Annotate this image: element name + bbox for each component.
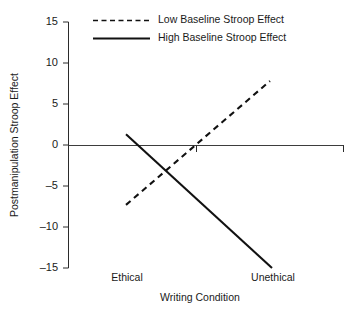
chart-figure: 15 10 5 0 –5 –10 –15 Postmanipulation St… (0, 0, 346, 315)
zero-baseline-group (69, 146, 345, 153)
x-axis-title: Writing Condition (160, 291, 240, 303)
series-line-low-baseline-stroop-effect (126, 81, 270, 205)
y-tick-label-neg5: –5 (46, 179, 58, 191)
y-tick-label-neg15: –15 (40, 261, 58, 273)
legend-entry-high-baseline: High Baseline Stroop Effect (93, 31, 286, 43)
y-tick-label-10: 10 (46, 56, 58, 68)
x-category-label-ethical: Ethical (111, 271, 143, 283)
y-axis-title: Postmanipulation Stroop Effect (8, 73, 20, 217)
chart-legend: Low Baseline Stroop Effect High Baseline… (93, 13, 286, 43)
y-tick-label-0: 0 (52, 138, 58, 150)
series-group (126, 81, 272, 268)
y-axis: 15 10 5 0 –5 –10 –15 Postmanipulation St… (8, 15, 69, 273)
y-tick-label-15: 15 (46, 15, 58, 27)
legend-entry-low-baseline: Low Baseline Stroop Effect (93, 13, 284, 25)
x-axis: Ethical Unethical Writing Condition (111, 271, 295, 303)
x-category-label-unethical: Unethical (251, 271, 295, 283)
legend-label-high-baseline: High Baseline Stroop Effect (158, 31, 286, 43)
stroop-interaction-line-chart: 15 10 5 0 –5 –10 –15 Postmanipulation St… (0, 0, 346, 315)
y-tick-label-neg10: –10 (40, 220, 58, 232)
series-line-high-baseline-stroop-effect (126, 134, 272, 268)
y-tick-label-5: 5 (52, 97, 58, 109)
legend-label-low-baseline: Low Baseline Stroop Effect (158, 13, 284, 25)
